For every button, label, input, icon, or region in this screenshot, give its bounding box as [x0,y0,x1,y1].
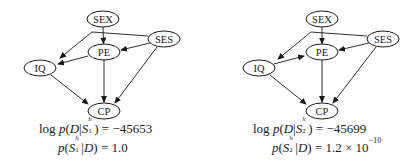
network-s2: SEX SES PE IQ CP [243,11,399,119]
node-label-sex: SEX [312,14,332,25]
edge-ses-cp [115,47,157,103]
edge-iq-pe [274,56,304,64]
node-label-iq: IQ [34,63,45,74]
posterior-s1: p(Sh1|D) = 1.0 [58,139,128,154]
log-likelihood-s1: log p(D|Sh1) = −45653 [39,120,152,135]
node-label-pe: PE [98,47,110,58]
posterior-exponent: −10 [369,136,382,145]
log-likelihood-s2: log p(D|Sh2) = −45699 [253,120,366,135]
node-label-cp: CP [98,106,111,117]
node-label-sex: SEX [93,14,113,25]
network-s1: SEX SES PE IQ CP [24,11,180,119]
edge-ses-pe [339,43,369,50]
edge-iq-cp [51,75,88,104]
edge-sex-pe [103,27,104,44]
node-label-pe: PE [316,47,328,58]
node-label-iq: IQ [253,63,264,74]
posterior-s2: p(Sh2|D) = 1.2 × 10−10 [272,139,381,154]
node-label-ses: SES [155,34,173,45]
node-label-cp: CP [316,106,329,117]
edge-ses-cp [333,47,376,103]
edge-pe-iq [58,56,88,64]
edge-ses-pe [121,43,150,50]
edge-iq-cp [270,75,306,104]
node-label-ses: SES [374,34,392,45]
